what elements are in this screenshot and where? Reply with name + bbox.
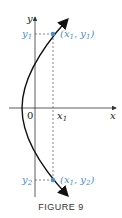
point-upper [51,32,56,37]
y-axis-label: y [26,13,33,24]
figure-diagram: y x 0 x1 y1 y2 (x1, y1) (x1, y2) FIGURE … [0,0,122,218]
point-upper-label: (x1, y1) [60,28,95,41]
y2-label: y2 [21,174,33,187]
x1-label: x1 [57,110,67,123]
origin-label: 0 [27,110,33,121]
x-axis-label: x [110,110,116,121]
point-lower [51,178,56,183]
point-lower-label: (x1, y2) [60,174,95,187]
y1-label: y1 [21,28,32,41]
figure-caption: FIGURE 9 [38,202,84,212]
